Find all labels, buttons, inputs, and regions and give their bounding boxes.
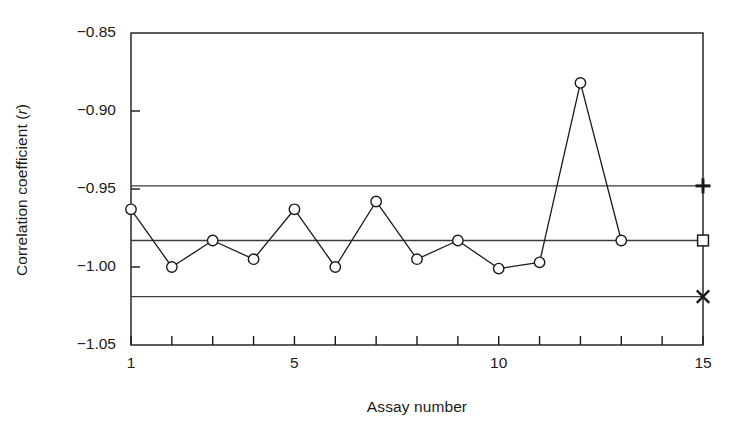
data-point-marker: [126, 204, 136, 214]
data-point-marker: [248, 254, 258, 264]
x-axis-tick-label: 10: [479, 354, 519, 372]
y-axis-tick-label: −0.95: [42, 179, 116, 197]
data-point-marker: [534, 257, 544, 267]
x-axis-tick-label: 1: [111, 354, 151, 372]
data-point-marker: [330, 262, 340, 272]
data-point-marker: [289, 204, 299, 214]
data-point-marker: [167, 262, 177, 272]
square-end-marker: [698, 235, 709, 246]
x-axis-tick-label: 5: [274, 354, 314, 372]
data-point-marker: [371, 196, 381, 206]
y-axis-tick-label: −0.85: [42, 23, 116, 41]
data-point-marker: [616, 235, 626, 245]
axes-group: [131, 33, 703, 345]
x-axis-tick-label: 15: [683, 354, 723, 372]
data-point-marker: [208, 235, 218, 245]
plot-frame: [131, 33, 703, 345]
data-point-marker: [494, 263, 504, 273]
data-point-marker: [412, 254, 422, 264]
plot-area: [0, 0, 739, 444]
y-axis-tick-label: −0.90: [42, 101, 116, 119]
y-axis-tick-label: −1.05: [42, 335, 116, 353]
data-point-marker: [575, 78, 585, 88]
data-point-marker: [453, 235, 463, 245]
chart-figure: Correlation coefficient (r) Assay number…: [0, 0, 739, 444]
data-series-group: [126, 78, 627, 274]
y-axis-tick-label: −1.00: [42, 257, 116, 275]
